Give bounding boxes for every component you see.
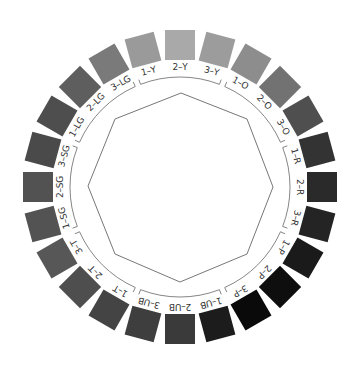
group-bracket-y	[139, 77, 221, 84]
swatch-label: 2–R	[295, 179, 305, 195]
color-swatch-2-r	[307, 172, 337, 202]
color-swatch-2-sg	[23, 172, 53, 202]
group-bracket-sg	[70, 146, 77, 228]
octagon-outline	[88, 93, 273, 282]
color-swatch-2-y	[165, 30, 195, 60]
swatch-label: 2–UB	[169, 302, 191, 312]
color-wheel-diagram: 2–Y3–Y1–O2–O3–O1–R2–R3–R1–P2–P3–P1–UB2–U…	[0, 0, 356, 366]
color-swatch-2-ub	[165, 314, 195, 344]
swatch-label: 2–SG	[55, 176, 65, 198]
swatch-label: 2–Y	[173, 62, 188, 72]
group-bracket-r	[283, 146, 290, 228]
group-bracket-ub	[139, 290, 221, 297]
